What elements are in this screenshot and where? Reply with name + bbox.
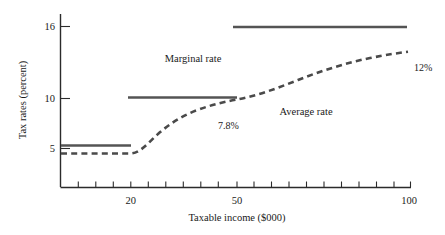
marginal-rate-label: Marginal rate xyxy=(165,53,222,64)
x-axis-title: Taxable income ($000) xyxy=(188,212,286,224)
x-tick-label-100: 100 xyxy=(401,195,417,206)
y-tick-label-5: 5 xyxy=(50,143,55,154)
y-axis-title: Tax rates (percent) xyxy=(17,60,29,139)
average-rate-label: Average rate xyxy=(279,106,332,117)
value-12-label: 12% xyxy=(414,62,432,73)
y-tick-label-16: 16 xyxy=(45,21,56,32)
tax-rates-chart: 16 10 5 Tax rates (percent) xyxy=(0,0,445,235)
x-minor-ticks xyxy=(78,182,410,188)
chart-canvas: 16 10 5 Tax rates (percent) xyxy=(0,0,445,235)
average-rate-curve xyxy=(61,52,408,154)
y-tick-label-10: 10 xyxy=(45,93,56,104)
x-tick-label-50: 50 xyxy=(232,195,243,206)
value-78-label: 7.8% xyxy=(218,120,239,131)
x-tick-label-20: 20 xyxy=(126,195,137,206)
